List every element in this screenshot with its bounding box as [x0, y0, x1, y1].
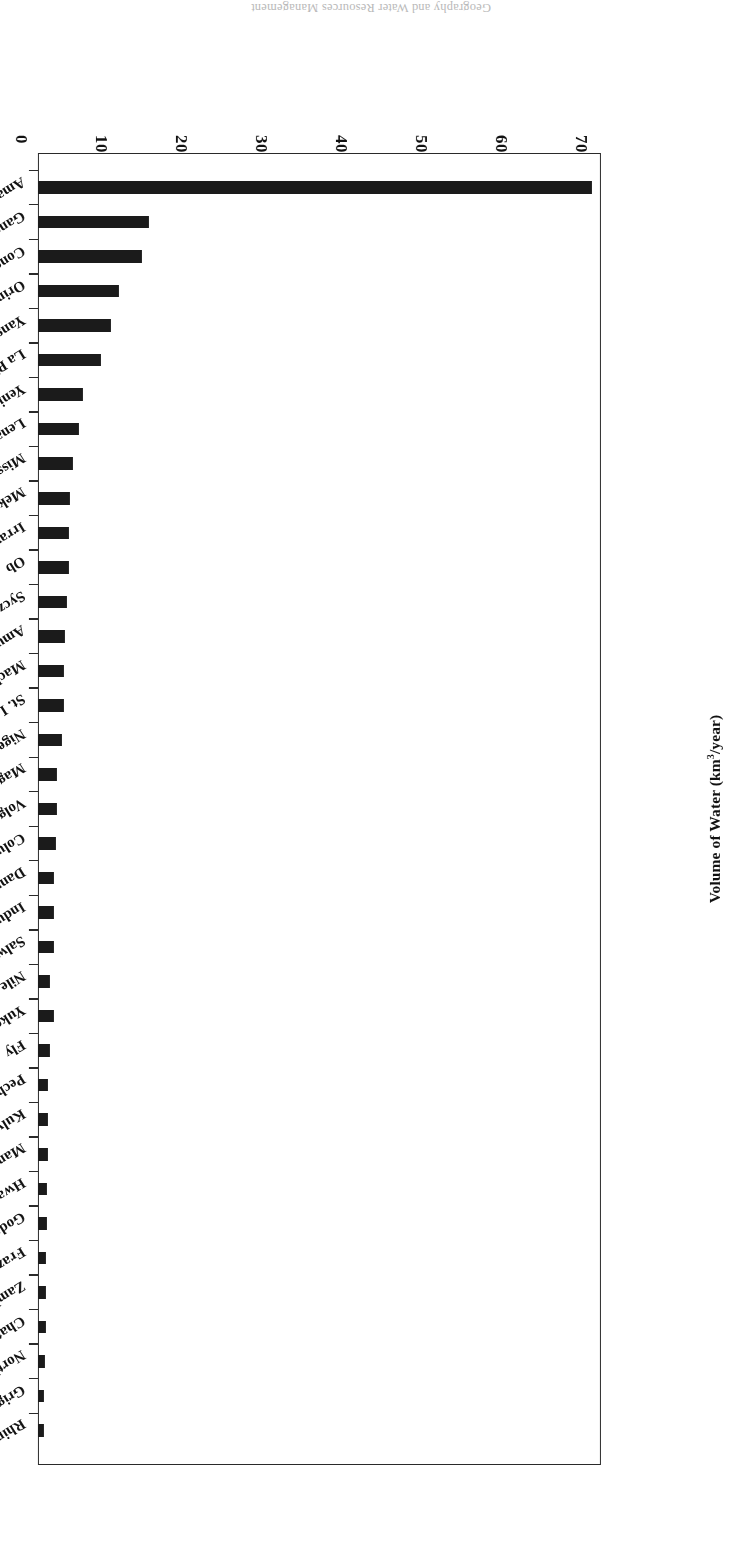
category-label: Nile [0, 967, 29, 995]
category-label: Indus [0, 898, 29, 932]
category-tick [29, 446, 38, 447]
category-tick [29, 1136, 38, 1137]
category-tick [29, 860, 38, 861]
category-tick [29, 722, 38, 723]
bar [38, 1355, 45, 1368]
bar [38, 181, 592, 194]
category-tick [29, 895, 38, 896]
page-header-text: Geography and Water Resources Management [250, 0, 490, 14]
category-label: Yukong [0, 1001, 29, 1042]
category-tick [29, 549, 38, 550]
bar [38, 1252, 46, 1265]
category-tick [29, 273, 38, 274]
category-label: Orinoco [0, 276, 29, 319]
category-label: Yangtze [0, 311, 29, 353]
category-label: Volga [0, 794, 29, 828]
category-tick [29, 964, 38, 965]
bar [38, 1390, 44, 1403]
category-tick [29, 1033, 38, 1034]
bar [38, 561, 69, 574]
category-label: Amur [0, 622, 29, 657]
category-label: Congo [0, 242, 29, 279]
category-tick [29, 584, 38, 585]
bar [38, 492, 70, 505]
bar [38, 1079, 48, 1092]
category-tick [29, 170, 38, 171]
bar [38, 250, 142, 263]
category-label: Lena [0, 415, 29, 447]
bar [38, 1424, 44, 1437]
bar [38, 1114, 48, 1127]
bar [38, 1044, 50, 1057]
category-label: Salween [0, 932, 29, 975]
category-tick [29, 929, 38, 930]
bar [38, 1010, 54, 1023]
category-tick [29, 411, 38, 412]
bar [38, 423, 79, 436]
bar [38, 975, 50, 988]
category-tick [29, 1067, 38, 1068]
category-label: Danube [0, 863, 29, 904]
bar [38, 665, 64, 678]
category-tick [29, 377, 38, 378]
bar [38, 216, 149, 229]
bar [38, 906, 54, 919]
bar [38, 527, 69, 540]
bar [38, 1183, 47, 1196]
bar [38, 596, 67, 609]
category-label: Yenisey [0, 380, 29, 420]
bar [38, 734, 62, 747]
bar [38, 941, 54, 954]
page-header-fragment: Geography and Water Resources Management [0, 0, 741, 14]
category-tick [29, 687, 38, 688]
category-tick [29, 515, 38, 516]
bar [38, 388, 83, 401]
category-tick [29, 1378, 38, 1379]
value-axis-tick-0: 0 [11, 135, 31, 144]
category-tick [29, 757, 38, 758]
plot-frame [38, 153, 601, 1465]
bar-chart: Volume of Water (km3/year) 0100020003000… [0, 16, 741, 1561]
category-label: Rhine [0, 1416, 29, 1451]
bar [38, 768, 57, 781]
category-tick [29, 618, 38, 619]
bar [38, 1286, 46, 1299]
category-label: Ganges [0, 207, 29, 247]
bar [38, 1321, 46, 1334]
category-tick [29, 1309, 38, 1310]
category-tick [29, 1343, 38, 1344]
category-label: Frazer [0, 1243, 29, 1281]
bar [38, 354, 101, 367]
value-axis-title: Volume of Water (km3/year) [705, 153, 724, 1465]
figure-rotated-container: Volume of Water (km3/year) 0100020003000… [0, 16, 741, 1561]
category-tick [29, 239, 38, 240]
category-label: Kulyma [0, 1105, 29, 1147]
category-label: Pechora [0, 1071, 29, 1114]
bar [38, 319, 111, 332]
category-tick [29, 480, 38, 481]
category-tick [29, 998, 38, 999]
category-tick [29, 653, 38, 654]
category-tick [29, 1413, 38, 1414]
category-tick [29, 204, 38, 205]
category-tick [29, 342, 38, 343]
bar [38, 837, 56, 850]
category-tick [29, 791, 38, 792]
bar [38, 458, 73, 471]
category-tick [29, 1240, 38, 1241]
category-tick [29, 1205, 38, 1206]
category-tick [29, 308, 38, 309]
bar [38, 803, 57, 816]
bar [38, 1217, 47, 1230]
bar [38, 285, 119, 298]
category-tick [29, 826, 38, 827]
category-tick [29, 1274, 38, 1275]
category-tick [29, 1171, 38, 1172]
category-label: Niger [0, 725, 29, 759]
bar [38, 699, 64, 712]
bar [38, 872, 54, 885]
category-label: Ob [2, 553, 28, 578]
category-label: Fly [2, 1036, 29, 1062]
category-label: Mekong [0, 484, 29, 527]
bar [38, 630, 65, 643]
